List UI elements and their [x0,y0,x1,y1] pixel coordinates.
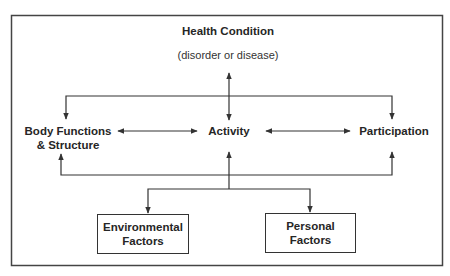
connector-bottom-right [229,152,392,175]
participation-label: Participation [355,124,433,138]
personal-line2: Factors [286,233,335,247]
health-condition-subtitle: (disorder or disease) [168,49,288,61]
connector-top-left [66,96,229,119]
health-condition-title: Health Condition [178,24,278,38]
connector-bottom-left [61,154,229,175]
environmental-line2: Factors [103,234,183,248]
personal-line1: Personal [286,219,335,233]
environmental-factors-box: Environmental Factors [97,214,189,254]
activity-label: Activity [199,124,259,138]
connector-top-right [229,96,392,119]
personal-factors-box: Personal Factors [265,213,356,253]
body-functions-label: Body Functions & Structure [20,124,116,152]
connector-environmental [148,189,229,213]
connector-personal [229,189,310,212]
body-functions-line1: Body Functions [20,124,116,138]
environmental-line1: Environmental [103,220,183,234]
body-functions-line2: & Structure [20,138,116,152]
